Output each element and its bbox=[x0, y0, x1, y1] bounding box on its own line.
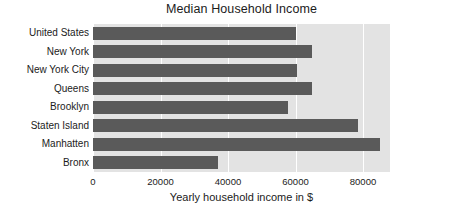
bar-row bbox=[93, 24, 390, 43]
x-axis-tick-label: 20000 bbox=[147, 176, 173, 187]
bar-row bbox=[93, 117, 390, 136]
y-axis-tick-label: Queens bbox=[1, 84, 89, 94]
y-axis-tick-labels: United StatesNew YorkNew York CityQueens… bbox=[0, 24, 89, 172]
chart-title: Median Household Income bbox=[93, 2, 390, 16]
x-axis-tick-label: 80000 bbox=[350, 176, 376, 187]
bar bbox=[93, 119, 358, 132]
bar-row bbox=[93, 61, 390, 80]
y-axis-tick-label: New York bbox=[1, 47, 89, 57]
x-axis-tick-labels: 020000400006000080000 bbox=[93, 176, 390, 190]
y-axis-tick-label: Bronx bbox=[1, 158, 89, 168]
y-axis-tick-label: New York City bbox=[1, 65, 89, 75]
plot-area bbox=[93, 24, 390, 172]
y-axis-tick-label: Staten Island bbox=[1, 121, 89, 131]
chart-figure: Median Household Income United StatesNew… bbox=[0, 0, 475, 224]
bar-row bbox=[93, 154, 390, 173]
bar-row bbox=[93, 98, 390, 117]
bar-row bbox=[93, 43, 390, 62]
x-axis-tick-label: 0 bbox=[90, 176, 95, 187]
bar bbox=[93, 82, 312, 95]
bar bbox=[93, 45, 312, 58]
bar bbox=[93, 156, 218, 169]
x-axis-tick-label: 40000 bbox=[215, 176, 241, 187]
x-axis-title: Yearly household income in $ bbox=[93, 191, 390, 203]
bar-series bbox=[93, 24, 390, 172]
bar bbox=[93, 101, 288, 114]
y-axis-tick-label: Brooklyn bbox=[1, 102, 89, 112]
bar bbox=[93, 64, 297, 77]
bar bbox=[93, 138, 380, 151]
bar bbox=[93, 27, 296, 40]
bar-row bbox=[93, 80, 390, 99]
y-axis-tick-label: Manhatten bbox=[1, 139, 89, 149]
bar-row bbox=[93, 135, 390, 154]
y-axis-tick-label: United States bbox=[1, 28, 89, 38]
x-axis-tick-label: 60000 bbox=[282, 176, 308, 187]
